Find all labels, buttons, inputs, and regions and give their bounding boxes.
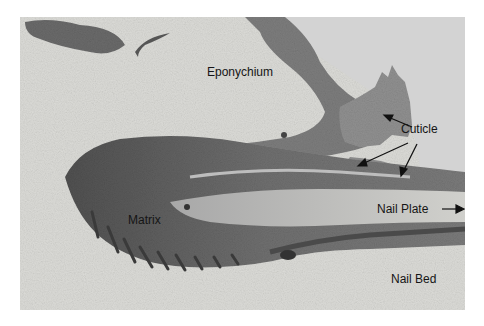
label-nail-bed: Nail Bed	[391, 273, 436, 285]
histology-micrograph: Eponychium Cuticle Matrix Nail Plate Nai…	[20, 17, 465, 310]
vessel	[280, 250, 296, 260]
cell-dot	[184, 204, 190, 210]
cell-dot	[281, 132, 287, 138]
tissue-drawing	[20, 17, 465, 310]
label-cuticle: Cuticle	[401, 123, 438, 135]
label-nail-plate: Nail Plate	[377, 203, 428, 215]
label-eponychium: Eponychium	[207, 66, 273, 78]
label-matrix: Matrix	[128, 214, 161, 226]
